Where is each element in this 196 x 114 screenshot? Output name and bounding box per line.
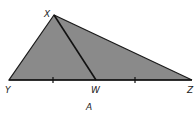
triangle-diagram: X Y W Z A [0, 0, 196, 114]
triangle-xyz [9, 15, 192, 80]
vertex-label-w: W [91, 85, 101, 95]
figure-caption: A [85, 102, 92, 112]
vertex-label-z: Z [186, 85, 194, 95]
vertex-label-x: X [43, 9, 51, 19]
vertex-label-y: Y [5, 85, 12, 95]
